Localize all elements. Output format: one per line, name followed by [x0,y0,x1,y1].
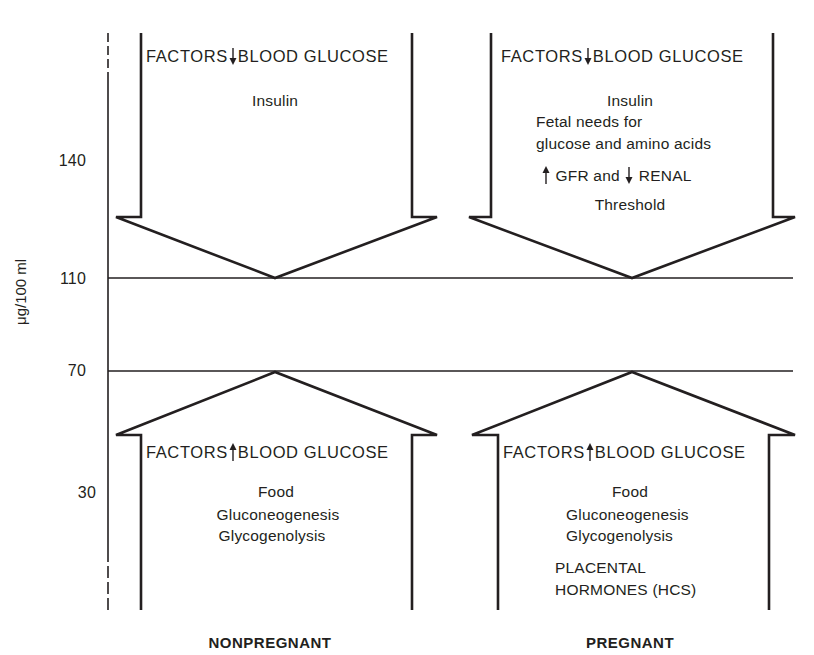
nonpregnant-up-header: FACTORSBLOOD GLUCOSE [146,442,389,462]
tick-110: 110 [46,270,86,288]
pregnant-down-arrow [469,33,795,278]
pregnant-glucose-amino: glucose and amino acids [536,135,711,153]
pregnant-threshold: Threshold [595,196,666,214]
nonpregnant-food: Food [258,483,294,501]
down-arrow-icon [583,46,593,66]
y-axis-label: μg/100 ml [12,259,29,325]
nonpregnant-gluconeogenesis: Gluconeogenesis [217,506,340,524]
caption-pregnant: PREGNANT [586,634,674,651]
pregnant-placental: PLACENTAL [555,559,646,577]
pregnant-gluconeogenesis: Gluconeogenesis [566,506,689,524]
pregnant-gfr-renal: GFR and RENAL [541,165,692,185]
down-arrow-icon [228,46,238,66]
nonpregnant-insulin: Insulin [252,92,298,110]
nonpregnant-glycogenolysis: Glycogenolysis [218,527,325,545]
up-arrow-icon [228,442,238,462]
tick-140: 140 [46,152,86,170]
tick-30: 30 [56,484,96,502]
pregnant-glycogenolysis: Glycogenolysis [566,527,673,545]
pregnant-up-header: FACTORSBLOOD GLUCOSE [503,442,746,462]
up-arrow-icon [541,165,551,185]
pregnant-food: Food [612,483,648,501]
diagram-line-art [0,0,814,655]
pregnant-down-header: FACTORSBLOOD GLUCOSE [501,46,744,66]
up-arrow-icon [585,442,595,462]
nonpregnant-down-arrow [116,33,437,278]
pregnant-insulin: Insulin [607,92,653,110]
caption-nonpregnant: NONPREGNANT [208,634,331,651]
tick-70: 70 [46,362,86,380]
pregnant-fetal-needs: Fetal needs for [536,113,642,131]
nonpregnant-down-header: FACTORSBLOOD GLUCOSE [146,46,389,66]
down-arrow-icon [624,165,634,185]
pregnant-hormones-hcs: HORMONES (HCS) [555,581,696,599]
